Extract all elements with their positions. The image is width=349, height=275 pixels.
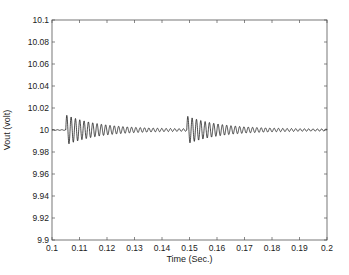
- x-tick-label: 0.18: [264, 243, 281, 253]
- y-tick-label: 9.96: [32, 169, 49, 179]
- y-tick-label: 9.98: [32, 147, 49, 157]
- y-tick-label: 9.94: [32, 191, 49, 201]
- x-tick-label: 0.12: [99, 243, 116, 253]
- y-tick-label: 10.06: [28, 59, 50, 69]
- y-tick-label: 10.1: [32, 15, 49, 25]
- x-tick-label: 0.2: [321, 243, 333, 253]
- y-tick-label: 10.02: [28, 103, 50, 113]
- x-tick-label: 0.19: [291, 243, 308, 253]
- x-tick-label: 0.14: [154, 243, 171, 253]
- y-tick-label: 9.92: [32, 213, 49, 223]
- x-tick-label: 0.16: [209, 243, 226, 253]
- y-tick-label: 10.08: [28, 37, 50, 47]
- y-tick-label: 10.04: [28, 81, 50, 91]
- x-axis-label: Time (Sec.): [166, 254, 212, 264]
- x-tick-label: 0.17: [236, 243, 253, 253]
- x-tick-label: 0.13: [126, 243, 143, 253]
- y-tick-label: 10: [40, 125, 50, 135]
- x-tick-label: 0.11: [72, 243, 88, 253]
- y-axis-label: Vout (volt): [2, 110, 12, 151]
- y-tick-label: 9.9: [37, 235, 49, 245]
- x-tick-label: 0.15: [181, 243, 198, 253]
- chart-canvas: 0.10.110.120.130.140.150.160.170.180.190…: [0, 0, 349, 275]
